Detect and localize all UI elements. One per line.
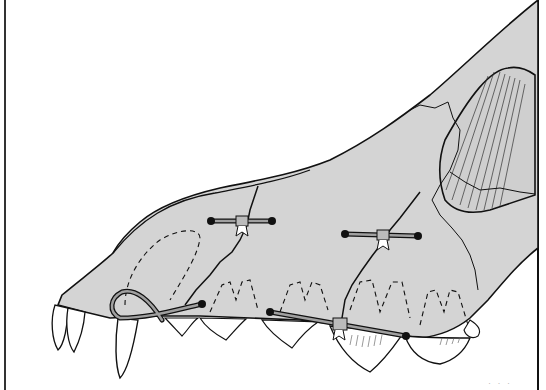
wire-twist: [333, 318, 347, 330]
molar-2: [464, 320, 480, 338]
drill-hole: [266, 308, 274, 316]
wire-twist: [236, 216, 248, 226]
drill-hole: [402, 332, 410, 340]
incisor-2: [67, 308, 85, 352]
skull-drawing: [0, 0, 546, 390]
artist-signature: · · ·: [488, 378, 512, 388]
premolar-3: [262, 320, 318, 348]
molar-1: [405, 336, 470, 364]
drill-hole: [414, 232, 422, 240]
drill-hole: [207, 217, 215, 225]
drill-hole: [268, 217, 276, 225]
drill-hole: [198, 300, 206, 308]
canine-tooth: [116, 318, 138, 378]
skull-illustration: [0, 0, 546, 390]
premolar-2: [200, 318, 246, 340]
incisor-1: [52, 305, 68, 350]
drill-hole: [341, 230, 349, 238]
premolar-1: [165, 318, 198, 336]
wire-twist: [377, 230, 389, 240]
